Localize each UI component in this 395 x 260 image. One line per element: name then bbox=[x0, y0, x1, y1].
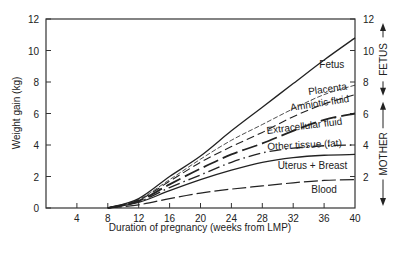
weight-gain-chart: 02468101248121620242832364024681012 Fetu… bbox=[0, 0, 395, 260]
arrow-down-icon bbox=[380, 198, 386, 206]
right-y-tick-label: 4 bbox=[363, 140, 369, 151]
y-tick-label: 0 bbox=[33, 203, 39, 214]
right-annotations: FETUSMOTHER bbox=[378, 23, 389, 206]
bracket-label: FETUS bbox=[378, 43, 389, 76]
y-tick-label: 6 bbox=[33, 109, 39, 120]
band-label: Other tissue (fat) bbox=[267, 137, 342, 152]
y-tick-label: 4 bbox=[33, 140, 39, 151]
y-tick-label: 2 bbox=[33, 172, 39, 183]
right-y-tick-label: 6 bbox=[363, 109, 369, 120]
x-axis-label: Duration of pregnancy (weeks from LMP) bbox=[109, 222, 291, 233]
band-label: Blood bbox=[311, 184, 337, 195]
y-axis-label: Weight gain (kg) bbox=[11, 77, 22, 150]
band-labels: FetusPlacentaAmniotic fluidExtracellular… bbox=[266, 59, 350, 195]
right-y-tick-label: 12 bbox=[363, 14, 375, 25]
band-label: Extracellular fluid bbox=[266, 116, 343, 136]
y-tick-label: 10 bbox=[28, 46, 40, 57]
right-y-tick-label: 2 bbox=[363, 172, 369, 183]
band-label: Uterus + Breast bbox=[278, 160, 348, 171]
right-y-tick-label: 10 bbox=[363, 46, 375, 57]
x-tick-label: 4 bbox=[74, 213, 80, 224]
x-tick-label: 36 bbox=[319, 213, 331, 224]
x-tick-label: 40 bbox=[349, 213, 361, 224]
band-label: Fetus bbox=[319, 59, 344, 70]
right-y-tick-label: 8 bbox=[363, 77, 369, 88]
bracket-label: MOTHER bbox=[378, 132, 389, 175]
band-label: Amniotic fluid bbox=[289, 93, 349, 113]
arrow-up-icon bbox=[380, 23, 386, 31]
y-tick-label: 12 bbox=[28, 14, 40, 25]
y-tick-label: 8 bbox=[33, 77, 39, 88]
arrow-up-icon bbox=[380, 102, 386, 110]
arrow-down-icon bbox=[380, 88, 386, 96]
